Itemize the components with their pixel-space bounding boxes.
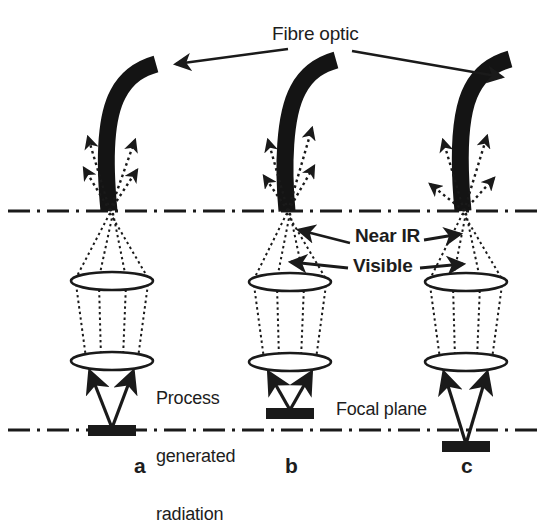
callout-fibre-optic <box>176 49 502 77</box>
panel-label-a: a <box>134 455 146 476</box>
process-generated-radiation-label: Process generated radiation <box>156 353 235 524</box>
source-bar-c <box>442 441 490 452</box>
panel-c <box>425 59 510 452</box>
lens-upper-b <box>249 273 331 291</box>
panel-a <box>71 64 156 436</box>
visible-label: Visible <box>353 256 413 275</box>
source-rays-a <box>90 372 133 428</box>
process-line-3: radiation <box>156 505 235 523</box>
panel-label-b: b <box>285 455 298 476</box>
panel-label-c: c <box>461 455 473 476</box>
lens-upper-c <box>425 273 507 291</box>
fibre-optic-a <box>106 64 156 211</box>
source-rays-b <box>269 373 311 410</box>
fibre-optic-label: Fibre optic <box>272 24 359 43</box>
near-ir-leader-left <box>299 230 350 243</box>
visible-leader-right <box>420 264 463 268</box>
source-bar-a <box>88 425 136 436</box>
lens-lower-a <box>71 352 153 370</box>
fibre-optic-leader-left <box>176 49 288 64</box>
near-ir-label: Near IR <box>355 226 420 245</box>
lens-lower-b <box>249 353 331 371</box>
fibre-optic-leader-right <box>352 51 502 77</box>
reference-lines <box>8 211 544 430</box>
source-bar-b <box>266 408 314 419</box>
lens-upper-a <box>71 272 153 290</box>
focal-plane-label: Focal plane <box>336 400 427 418</box>
process-line-1: Process <box>156 389 235 407</box>
source-rays-c <box>444 373 487 444</box>
near-ir-leader-right <box>424 234 460 240</box>
panel-b <box>249 60 336 419</box>
process-line-2: generated <box>156 447 235 465</box>
lens-lower-c <box>425 353 507 371</box>
